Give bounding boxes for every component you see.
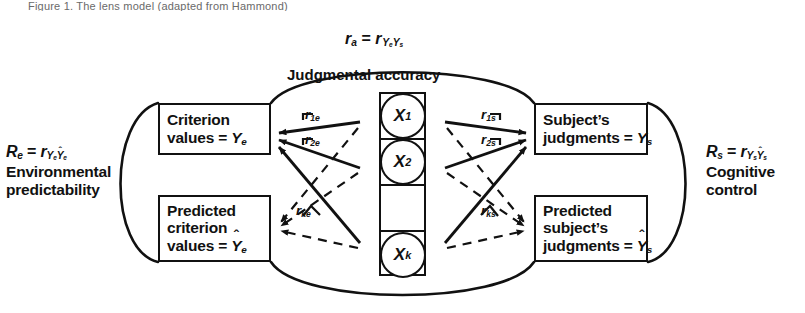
predicted-criterion-symbol-sub: e [241,244,246,255]
cue-node-x2[interactable]: X2 [380,139,426,185]
cue-node-x1-symbol: X [394,106,405,126]
environmental-predictability-relation: Re = rYeˆYe [6,143,111,162]
environmental-predictability-line1: Environmental [6,163,111,181]
cue-node-xk[interactable]: Xk [380,232,426,278]
predicted-subject-line1: Predicted [543,202,639,219]
predicted-criterion-line2: criterion [167,219,262,236]
environmental-predictability-line2: predictability [6,181,111,199]
cue-node-xk-symbol: X [394,245,405,265]
cognitive-control-relation: Rs = rYsˆYs [706,143,775,162]
lens-model-figure: Figure 1. The lens model (adapted from H… [0,0,805,313]
cue-validity-label-r2s: r2s [481,132,496,148]
cue-validity-label-r1s: r1s [481,107,496,123]
cue-cell[interactable]: X1 [381,94,424,140]
subject-judgments-line1: Subject’s [543,111,639,128]
predicted-criterion-line3: values = ˆYe [167,237,262,255]
environmental-predictability-arc [121,103,159,262]
cue-node-x1[interactable]: X1 [380,93,426,139]
cue-validity-label-r1e: r1e [305,107,320,123]
subject-judgments-box[interactable]: Subject’s judgments = Ys [534,103,648,155]
predicted-subject-line3: judgments = ˆYs [543,237,639,255]
cue-node-x2-symbol: X [394,152,405,172]
cue-node-x2-sub: 2 [405,156,411,168]
cue-cell[interactable]: X2 [381,140,424,186]
judgmental-accuracy-relation: ra = r YeYs [345,30,403,49]
cue-validity-label-r2e: r2e [305,132,320,148]
cue-node-x1-sub: 1 [405,110,411,122]
criterion-symbol: Y [231,129,241,146]
cognitive-control-label: Rs = rYsˆYs Cognitive control [706,143,775,198]
criterion-values-line1: Criterion [167,111,262,128]
predicted-subject-hat-icon: ˆ [639,229,644,244]
subject-judgments-symbol: Y [637,129,647,146]
environmental-predictability-label: Re = rYeˆYe Environmental predictability [6,143,111,198]
predicted-criterion-values-box[interactable]: Predicted criterion values = ˆYe [158,195,271,262]
subject-judgments-symbol-sub: s [647,136,652,147]
cognitive-control-arc [648,103,686,262]
cue-validity-label-rke: rke [296,203,311,219]
predicted-criterion-line1: Predicted [167,202,262,219]
right-hat-icon: ˆ [758,145,761,155]
predicted-criterion-hat-icon: ˆ [234,229,239,244]
predicted-subject-symbol-sub: s [647,244,652,255]
left-hat-icon: ˆ [58,145,61,155]
predicted-subject-line2: subject’s [543,219,639,236]
criterion-values-line2: values = Ye [167,129,262,147]
subject-judgments-line2: judgments = Ys [543,129,639,147]
cue-cell-empty[interactable] [381,186,424,232]
criterion-symbol-sub: e [241,136,246,147]
predicted-subject-judgments-box[interactable]: Predicted subject’s judgments = ˆYs [534,195,648,262]
cognitive-control-line2: control [706,181,775,199]
cue-cell[interactable]: Xk [381,232,424,278]
cognitive-control-line1: Cognitive [706,163,775,181]
cue-node-xk-sub: k [405,249,411,261]
cue-validity-label-rks: rks [481,203,496,219]
judgmental-accuracy-label: Judgmental accuracy [287,66,440,83]
criterion-values-box[interactable]: Criterion values = Ye [158,103,271,155]
cue-stack: X1 X2 Xk [379,92,426,276]
